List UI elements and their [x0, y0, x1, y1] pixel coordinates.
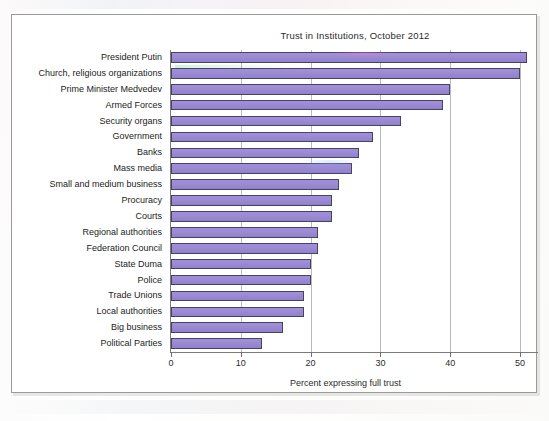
tick-mark-50: [520, 352, 521, 357]
bar-row: [171, 320, 520, 335]
category-label: Banks: [137, 145, 162, 160]
gridline-50: [520, 50, 521, 352]
category-label: Local authorities: [96, 304, 162, 319]
category-label: Small and medium business: [49, 177, 162, 192]
category-label: Government: [112, 129, 162, 144]
bar: [171, 243, 318, 254]
bar: [171, 132, 373, 143]
tick-label-30: 30: [375, 358, 385, 368]
category-label: Regional authorities: [82, 225, 162, 240]
bar-row: [171, 209, 520, 224]
category-label: Big business: [111, 320, 162, 335]
tick-label-10: 10: [236, 358, 246, 368]
category-label: Police: [137, 273, 162, 288]
bar-row: [171, 145, 520, 160]
bar: [171, 148, 359, 159]
bar-row: [171, 225, 520, 240]
category-labels: President PutinChurch, religious organiz…: [0, 50, 166, 352]
category-label: Federation Council: [86, 241, 162, 256]
category-label: Procuracy: [121, 193, 162, 208]
bar: [171, 307, 304, 318]
figure-page: Trust in Institutions, October 2012 Pres…: [0, 0, 549, 421]
bar-row: [171, 193, 520, 208]
bar-row: [171, 66, 520, 81]
category-label: Church, religious organizations: [38, 66, 162, 81]
category-label: Security organs: [99, 114, 162, 129]
bar: [171, 68, 520, 79]
bar: [171, 163, 352, 174]
bar-row: [171, 98, 520, 113]
category-label: Trade Unions: [108, 288, 162, 303]
bar: [171, 100, 443, 111]
tick-mark-20: [311, 352, 312, 357]
bar: [171, 84, 450, 95]
bar: [171, 291, 304, 302]
category-label: State Duma: [114, 257, 162, 272]
category-label: Mass media: [113, 161, 162, 176]
tick-mark-30: [380, 352, 381, 357]
bar-row: [171, 50, 520, 65]
category-label: Armed Forces: [105, 98, 162, 113]
x-axis-label: Percent expressing full trust: [171, 378, 520, 388]
bar-row: [171, 273, 520, 288]
bar: [171, 211, 332, 222]
category-label: Political Parties: [100, 336, 162, 351]
chart-title: Trust in Institutions, October 2012: [185, 30, 525, 41]
bar: [171, 227, 318, 238]
bar-row: [171, 304, 520, 319]
x-axis-line: [170, 352, 538, 353]
bar-row: [171, 241, 520, 256]
bar-row: [171, 288, 520, 303]
category-label: Courts: [135, 209, 162, 224]
category-label: Prime Minister Medvedev: [60, 82, 162, 97]
bar: [171, 259, 311, 270]
category-label: President Putin: [101, 50, 162, 65]
bar-row: [171, 257, 520, 272]
bar-row: [171, 82, 520, 97]
bar: [171, 322, 283, 333]
bar: [171, 52, 527, 63]
bar: [171, 338, 262, 349]
bar-row: [171, 161, 520, 176]
bar: [171, 116, 401, 127]
bar-row: [171, 129, 520, 144]
bar-row: [171, 336, 520, 351]
tick-label-20: 20: [306, 358, 316, 368]
bar-row: [171, 114, 520, 129]
bar-row: [171, 177, 520, 192]
plot-area: [171, 50, 520, 352]
bar: [171, 275, 311, 286]
tick-mark-40: [450, 352, 451, 357]
tick-label-40: 40: [445, 358, 455, 368]
bar: [171, 195, 332, 206]
tick-mark-0: [171, 352, 172, 357]
bar: [171, 179, 339, 190]
tick-mark-10: [241, 352, 242, 357]
tick-label-50: 50: [515, 358, 525, 368]
tick-label-0: 0: [168, 358, 173, 368]
